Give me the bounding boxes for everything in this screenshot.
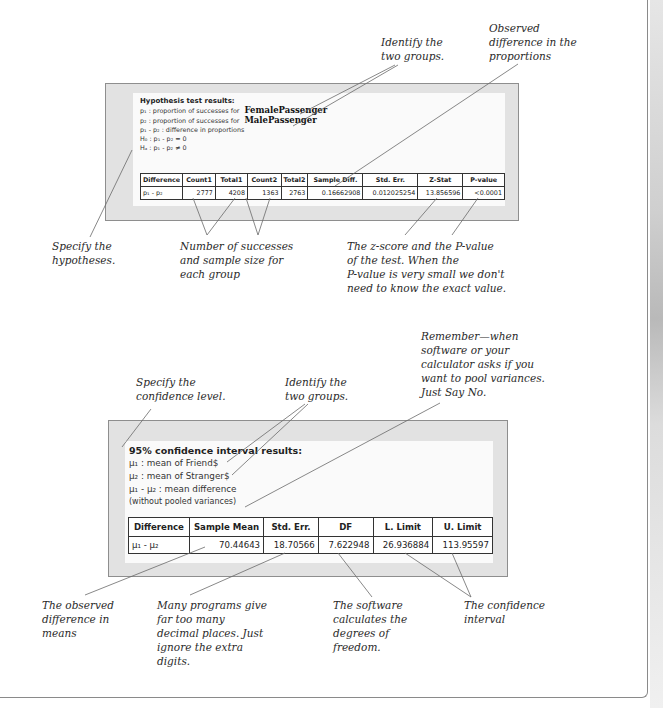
annotation-observed-diff-means: The observed difference in means — [42, 598, 114, 640]
cell-p-value: <0.0001 — [463, 187, 505, 200]
diff-definition: p₁ - p₂ : difference in proportions — [140, 126, 327, 135]
annotation-observed-diff-proportions: Observed difference in the proportions — [489, 21, 577, 63]
p2-label: p₂ : proportion of successes for — [140, 117, 239, 125]
mean-diff-definition: μ₁ - μ₂ : mean difference — [129, 483, 302, 496]
annotation-zscore-pvalue: The z-score and the P-value of the test.… — [347, 239, 506, 295]
annotation-specify-hypotheses: Specify the hypotheses. — [52, 239, 115, 267]
cell-difference: p₁ - p₂ — [141, 187, 183, 200]
p1-label: p₁ : proportion of successes for — [140, 107, 239, 115]
cell-count1: 2777 — [183, 187, 216, 200]
cell-lower-limit: 26.936884 — [373, 537, 433, 554]
col-header: Std. Err. — [363, 174, 418, 187]
cell-std-err: 0.012025254 — [363, 187, 418, 200]
cell-std-err: 18.70566 — [264, 537, 319, 554]
hypothesis-test-output: Hypothesis test results: p₁ : proportion… — [133, 93, 505, 206]
null-hypothesis: H₀ : p₁ - p₂ = 0 — [140, 135, 327, 144]
col-header: Total1 — [215, 174, 247, 187]
alt-hypothesis: Hₐ : p₁ - p₂ ≠ 0 — [140, 144, 327, 153]
col-header: DF — [318, 518, 373, 537]
confidence-interval-panel: 95% confidence interval results: μ₁ : me… — [108, 420, 508, 577]
cell-sample-mean: 70.44643 — [189, 537, 263, 554]
col-header: Z-Stat — [418, 174, 463, 187]
mu2-definition: μ₂ : mean of Stranger$ — [129, 470, 302, 483]
annotation-degrees-freedom: The software calculates the degrees of f… — [333, 598, 407, 654]
cell-total2: 2763 — [281, 187, 308, 200]
col-header: Sample Diff. — [308, 174, 363, 187]
cell-total1: 4208 — [215, 187, 247, 200]
page-edge-strip — [650, 0, 663, 708]
pooled-variances-note: (without pooled variances) — [129, 496, 302, 507]
col-header: Std. Err. — [264, 518, 319, 537]
col-header: P-value — [463, 174, 505, 187]
table-row: μ₁ - μ₂ 70.44643 18.70566 7.622948 26.93… — [129, 537, 493, 554]
confidence-interval-output: 95% confidence interval results: μ₁ : me… — [125, 441, 493, 563]
cell-z-stat: 13.856596 — [418, 187, 463, 200]
group2-name: MalePassenger — [244, 115, 316, 125]
annotation-specify-confidence-level: Specify the confidence level. — [136, 375, 226, 403]
annotation-pool-variances: Remember—when software or your calculato… — [421, 329, 545, 399]
table-header-row: Difference Sample Mean Std. Err. DF L. L… — [129, 518, 493, 537]
col-header: Sample Mean — [189, 518, 263, 537]
annotation-identify-groups-bottom: Identify the two groups. — [285, 375, 348, 403]
cell-upper-limit: 113.95597 — [433, 537, 493, 554]
col-header: L. Limit — [373, 518, 433, 537]
col-header: Difference — [141, 174, 183, 187]
col-header: Count2 — [247, 174, 281, 187]
mu1-definition: μ₁ : mean of Friend$ — [129, 457, 302, 470]
annotation-successes-sizes: Number of successes and sample size for … — [180, 239, 293, 281]
cell-df: 7.622948 — [318, 537, 373, 554]
confidence-interval-table: Difference Sample Mean Std. Err. DF L. L… — [128, 517, 493, 554]
hypothesis-test-table: Difference Count1 Total1 Count2 Total2 S… — [140, 173, 505, 200]
annotation-confidence-interval: The confidence interval — [464, 598, 545, 626]
col-header: Total2 — [281, 174, 308, 187]
group1-name: FemalePassenger — [244, 105, 327, 115]
p2-definition: p₂ : proportion of successes forMalePass… — [140, 116, 327, 126]
col-header: Count1 — [183, 174, 216, 187]
annotation-identify-groups-top: Identify the two groups. — [381, 35, 444, 63]
hypothesis-test-panel: Hypothesis test results: p₁ : proportion… — [105, 83, 519, 221]
cell-difference: μ₁ - μ₂ — [129, 537, 190, 554]
table-row: p₁ - p₂ 2777 4208 1363 2763 0.16662908 0… — [141, 187, 505, 200]
cell-sample-diff: 0.16662908 — [308, 187, 363, 200]
confidence-interval-title: 95% confidence interval results: — [129, 444, 302, 457]
cell-count2: 1363 — [247, 187, 281, 200]
annotation-decimal-places: Many programs give far too many decimal … — [157, 598, 267, 668]
table-header-row: Difference Count1 Total1 Count2 Total2 S… — [141, 174, 505, 187]
col-header: U. Limit — [433, 518, 493, 537]
col-header: Difference — [129, 518, 190, 537]
